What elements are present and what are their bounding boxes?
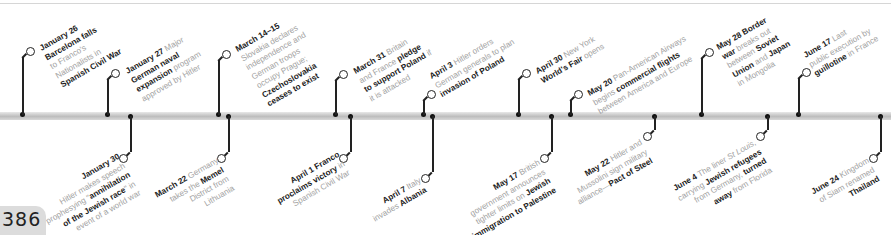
event-may17-label: May 17 British government announces tigh… bbox=[455, 158, 558, 235]
ring-icon bbox=[802, 68, 811, 77]
ring-icon bbox=[111, 69, 120, 78]
ring-icon bbox=[756, 132, 765, 141]
ring-icon bbox=[522, 69, 531, 78]
ring-icon bbox=[705, 48, 714, 57]
event-jan30-label: January 30 Hitler makes speech prophesyi… bbox=[34, 152, 143, 235]
event-jan26-label: January 26 Barcelona falls to Franco's N… bbox=[38, 11, 124, 91]
event-mar14-label: March 14–15 Slovakia declares independen… bbox=[234, 12, 329, 109]
ring-icon bbox=[339, 70, 348, 79]
ring-icon bbox=[574, 90, 583, 99]
page-top-rule bbox=[0, 3, 891, 4]
ring-icon bbox=[222, 50, 231, 59]
event-apr1-label: April 1 Franco proclaims victory in Span… bbox=[270, 150, 352, 216]
ring-icon bbox=[26, 47, 35, 56]
event-jun17-label: June 17 Last public execution by guillot… bbox=[802, 16, 881, 80]
event-may22-label: May 22 Hitler and Mussolini sign militar… bbox=[565, 138, 654, 208]
timeline-bar bbox=[0, 112, 891, 120]
event-apr30-label: April 30 New York World's Fair opens bbox=[534, 32, 606, 86]
ring-icon bbox=[540, 154, 549, 163]
event-may28-label: May 28 Border war breaks out between Sov… bbox=[715, 11, 798, 89]
event-apr3-label: April 3 Hitler orders German generals to… bbox=[428, 28, 522, 100]
event-jun24-label: June 24 Kingdom of Siam renamed Thailand bbox=[810, 156, 882, 216]
event-jan27-label: January 27 Major German naval expansion … bbox=[124, 31, 208, 104]
event-mar22-label: March 22 Germany takes the Memel Distric… bbox=[153, 156, 236, 228]
page-number: 386 bbox=[2, 208, 41, 230]
event-jun4-label: June 4 The liner St Louis, carrying Jewi… bbox=[671, 138, 774, 222]
ring-icon bbox=[427, 90, 436, 99]
ring-icon bbox=[643, 132, 652, 141]
ring-icon bbox=[869, 154, 878, 163]
event-apr7-label: April 7 Italy invades Albania bbox=[366, 176, 429, 224]
ring-icon bbox=[421, 174, 430, 183]
